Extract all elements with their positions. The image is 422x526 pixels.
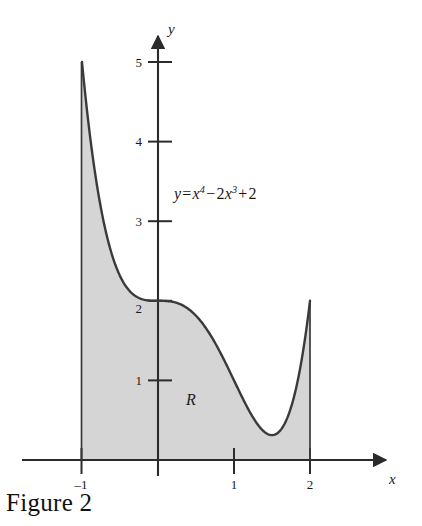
y-tick-label-5: 5: [124, 56, 142, 69]
equation-constant: 2: [249, 185, 257, 202]
region-label-r: R: [186, 392, 196, 408]
shaded-region-r: [82, 62, 310, 460]
figure-container: 5 4 3 2 1 –1 1 2 y x R y=x4−2x3+2 Figure…: [0, 0, 422, 526]
y-tick-label-3: 3: [124, 215, 142, 228]
equation-plus: +: [237, 185, 248, 202]
equation-minus: −: [205, 185, 216, 202]
y-tick-label-4: 4: [124, 135, 142, 148]
equation-term2-coefficient: 2: [216, 185, 224, 202]
plot-canvas: [0, 0, 422, 486]
equation-term2-base: x: [225, 185, 232, 202]
curve-equation-annotation: y=x4−2x3+2: [174, 186, 257, 202]
y-axis-label: y: [168, 22, 175, 37]
figure-caption: Figure 2: [6, 489, 92, 517]
x-tick-label-1: 1: [224, 478, 244, 491]
x-tick-label-2: 2: [300, 478, 320, 491]
equation-term1-base: x: [193, 185, 200, 202]
x-axis-label: x: [389, 472, 396, 487]
equation-equals: =: [181, 185, 192, 202]
y-tick-label-2: 2: [124, 302, 142, 315]
y-tick-label-1: 1: [124, 374, 142, 387]
